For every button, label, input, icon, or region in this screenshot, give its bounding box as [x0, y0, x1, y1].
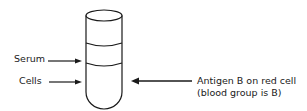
tube-opening: [86, 10, 122, 21]
test-tube: [86, 10, 122, 109]
antigen-label-line2: (blood group is B): [197, 87, 282, 98]
serum-top-boundary: [86, 43, 122, 46]
tube-body: [86, 16, 122, 110]
cells-arrow: [49, 80, 82, 85]
antigen-arrow: [131, 78, 192, 85]
antigen-label-line1: Antigen B on red cell: [197, 75, 296, 86]
serum-arrow: [48, 59, 82, 64]
serum-cells-boundary: [86, 63, 122, 66]
cells-label: Cells: [19, 75, 42, 86]
serum-label: Serum: [14, 53, 45, 64]
